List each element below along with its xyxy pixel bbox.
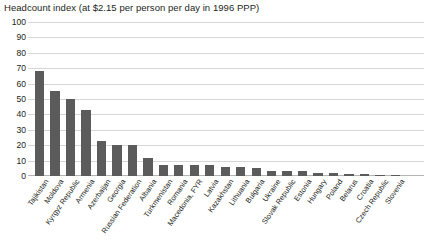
bar	[298, 171, 307, 176]
bar	[97, 141, 106, 176]
bar	[81, 110, 90, 176]
bar	[282, 171, 291, 176]
headcount-index-bar-chart: Headcount index (at $2.15 per person per…	[0, 0, 435, 242]
gridline	[28, 53, 424, 54]
y-axis-tick-label: 100	[0, 18, 26, 27]
gridline	[28, 22, 424, 23]
y-axis-tick-label: 20	[0, 141, 26, 150]
y-axis-tick-label: 80	[0, 49, 26, 58]
plot-area	[28, 22, 424, 176]
bar	[313, 173, 322, 176]
y-axis-tick-label: 40	[0, 110, 26, 119]
y-axis-tick-label: 70	[0, 64, 26, 73]
chart-title: Headcount index (at $2.15 per person per…	[4, 2, 259, 13]
bar	[221, 167, 230, 176]
bar	[391, 175, 400, 176]
bar	[66, 99, 75, 176]
y-axis-tick-label: 10	[0, 156, 26, 165]
bar	[375, 175, 384, 176]
y-axis: 1009080706050403020100	[0, 22, 26, 176]
x-axis-labels: TajikistanMoldovaKyrgyz RepublicArmeniaA…	[28, 178, 428, 242]
bar	[205, 165, 214, 176]
y-axis-tick-label: 50	[0, 95, 26, 104]
bar	[190, 165, 199, 176]
bar	[50, 91, 59, 176]
y-axis-tick-label: 60	[0, 79, 26, 88]
bar	[252, 168, 261, 176]
y-axis-tick-label: 30	[0, 126, 26, 135]
bar	[159, 165, 168, 176]
gridline	[28, 84, 424, 85]
gridline	[28, 68, 424, 69]
bar	[267, 171, 276, 176]
bar	[112, 145, 121, 176]
y-axis-tick-label: 0	[0, 172, 26, 181]
gridline	[28, 37, 424, 38]
bar	[35, 71, 44, 176]
bar	[143, 158, 152, 176]
bar	[236, 167, 245, 176]
bar	[360, 174, 369, 176]
bar	[344, 174, 353, 176]
bar	[329, 173, 338, 176]
bar	[128, 145, 137, 176]
bar	[174, 165, 183, 176]
gridline	[28, 99, 424, 100]
y-axis-tick-label: 90	[0, 33, 26, 42]
